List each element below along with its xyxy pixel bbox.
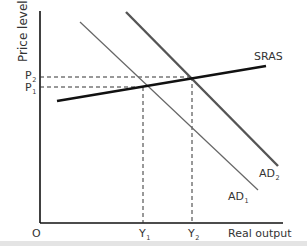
ad1-curve [80, 22, 258, 190]
y1-label: Y1 [139, 228, 150, 242]
bottom-band [0, 241, 307, 246]
sras-label: SRAS [254, 51, 283, 62]
origin-label: O [32, 228, 41, 239]
y-axis-label: Price level [16, 0, 30, 62]
ad2-curve [126, 12, 278, 166]
ad1-label: AD1 [228, 191, 249, 205]
ad-as-diagram [0, 0, 307, 246]
x-axis-label: Real output [228, 228, 292, 239]
p1-label: P1 [25, 82, 36, 96]
y2-label: Y2 [188, 228, 199, 242]
sras-curve [57, 66, 266, 101]
ad2-label: AD2 [259, 168, 280, 182]
